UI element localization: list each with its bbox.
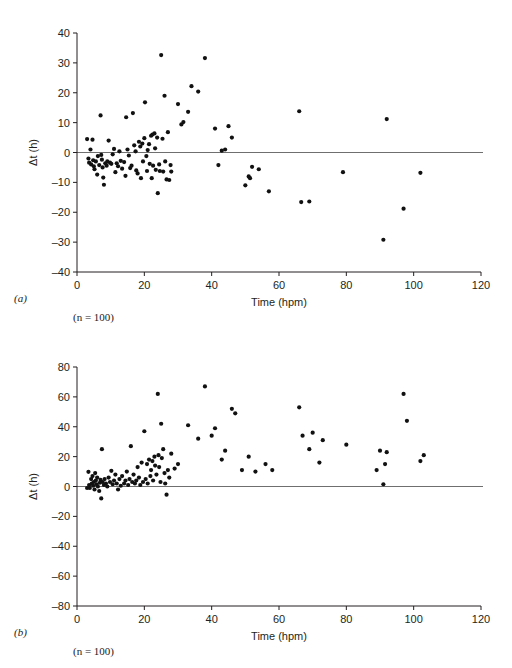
data-point <box>143 100 147 104</box>
data-point <box>300 434 304 438</box>
panel-a: –40–30–20–10010203040020406080100120Time… <box>0 0 512 334</box>
data-point <box>385 450 389 454</box>
data-point <box>226 124 230 128</box>
data-point <box>161 447 165 451</box>
data-point <box>405 419 409 423</box>
y-axis-tick-label: –60 <box>52 570 70 582</box>
data-point <box>307 199 311 203</box>
data-point <box>297 405 301 409</box>
y-axis-tick-label: –30 <box>52 236 70 248</box>
y-axis-tick-label: 60 <box>58 391 70 403</box>
data-point <box>94 159 98 163</box>
data-point <box>156 453 160 457</box>
data-point <box>112 147 116 151</box>
data-point <box>243 183 247 187</box>
data-point <box>267 189 271 193</box>
data-point <box>142 429 146 433</box>
data-point-group <box>85 384 426 500</box>
x-axis-tick-label: 0 <box>74 279 80 291</box>
x-axis-tick-label: 60 <box>273 613 285 625</box>
data-point <box>139 176 143 180</box>
data-point <box>240 468 244 472</box>
x-axis-tick-label: 100 <box>404 279 422 291</box>
data-point <box>169 452 173 456</box>
data-point <box>381 482 385 486</box>
panel-b: –80–60–40–20020406080020406080100120Time… <box>0 334 512 668</box>
data-point <box>120 474 124 478</box>
x-axis-tick-label: 60 <box>273 279 285 291</box>
data-point <box>418 459 422 463</box>
y-axis-tick-label: 20 <box>58 87 70 99</box>
data-point <box>141 159 145 163</box>
y-axis-title: Δt (h) <box>27 139 39 166</box>
y-axis-tick-label: 0 <box>64 147 70 159</box>
data-point <box>140 461 144 465</box>
data-point <box>142 136 146 140</box>
x-axis-tick-label: 0 <box>74 613 80 625</box>
data-point <box>250 165 254 169</box>
data-point <box>145 462 149 466</box>
data-point <box>186 423 190 427</box>
data-point <box>86 156 90 160</box>
data-point <box>145 169 149 173</box>
data-point <box>157 465 161 469</box>
data-point <box>125 147 129 151</box>
data-point <box>270 468 274 472</box>
data-point <box>299 200 303 204</box>
x-axis-title: Time (hpm) <box>251 630 307 642</box>
data-point <box>97 489 101 493</box>
data-point <box>166 130 170 134</box>
data-point <box>90 138 94 142</box>
data-point <box>113 170 117 174</box>
data-point <box>317 461 321 465</box>
data-point <box>140 141 144 145</box>
data-point <box>311 431 315 435</box>
data-point <box>163 159 167 163</box>
data-point <box>297 109 301 113</box>
y-axis-tick-label: –20 <box>52 206 70 218</box>
data-point <box>196 89 200 93</box>
data-point <box>154 472 158 476</box>
data-point <box>137 475 141 479</box>
data-point <box>98 113 102 117</box>
data-point <box>124 115 128 119</box>
data-point <box>88 147 92 151</box>
data-point <box>154 168 158 172</box>
data-point <box>341 170 345 174</box>
x-axis-title: Time (hpm) <box>251 296 307 308</box>
data-point <box>220 458 224 462</box>
data-point <box>136 465 140 469</box>
data-point <box>216 163 220 167</box>
data-point <box>230 407 234 411</box>
data-point <box>169 170 173 174</box>
data-point <box>321 438 325 442</box>
y-axis-tick-label: –10 <box>52 176 70 188</box>
data-point <box>344 443 348 447</box>
data-point <box>263 462 267 466</box>
data-point <box>92 487 96 491</box>
data-point <box>102 183 106 187</box>
data-point <box>157 162 161 166</box>
data-point <box>253 469 257 473</box>
data-point <box>176 462 180 466</box>
data-point <box>99 153 103 157</box>
y-axis-tick-label: 20 <box>58 451 70 463</box>
data-point <box>153 463 157 467</box>
data-point <box>146 481 150 485</box>
data-point <box>378 449 382 453</box>
x-axis-tick-label: 40 <box>206 279 218 291</box>
data-point <box>150 459 154 463</box>
data-point <box>152 455 156 459</box>
data-point <box>107 475 111 479</box>
x-axis-tick-label: 120 <box>472 279 490 291</box>
data-point <box>186 110 190 114</box>
data-point <box>100 158 104 162</box>
data-point <box>156 191 160 195</box>
data-point <box>166 468 170 472</box>
data-point <box>164 493 168 497</box>
n-label-a-text: (n = 100) <box>73 311 114 323</box>
data-point <box>213 127 217 131</box>
data-point <box>159 53 163 57</box>
y-axis-tick-label: 40 <box>58 421 70 433</box>
data-point <box>109 162 113 166</box>
